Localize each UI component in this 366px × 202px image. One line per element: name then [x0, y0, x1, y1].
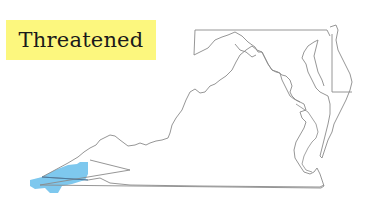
species-range	[30, 162, 88, 193]
maryland-outline	[194, 30, 330, 102]
chesapeake-shore	[296, 104, 318, 172]
range-map	[0, 0, 366, 202]
delaware-outline	[302, 25, 352, 158]
